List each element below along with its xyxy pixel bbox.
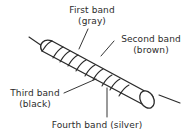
resistor-color-band-figure: First band (gray) Second band (brown) Th… [0,0,186,136]
label-first-band-name: First band [62,5,122,16]
label-third-band-value: (black) [4,99,66,110]
label-second-band-name: Second band [116,34,186,45]
label-first-band-value: (gray) [62,16,122,27]
label-third-band-name: Third band [4,88,66,99]
right-lead-wire [159,95,180,103]
label-fourth-band-name: Fourth band (silver) [47,120,147,131]
label-second-band: Second band (brown) [116,34,186,56]
label-third-band: Third band (black) [4,88,66,110]
leader-line-second-band [101,41,114,56]
label-first-band: First band (gray) [62,5,122,27]
label-fourth-band: Fourth band (silver) [47,120,147,131]
leader-line-third-band [64,79,96,93]
label-second-band-value: (brown) [116,45,186,56]
leader-line-first-band [79,29,88,49]
